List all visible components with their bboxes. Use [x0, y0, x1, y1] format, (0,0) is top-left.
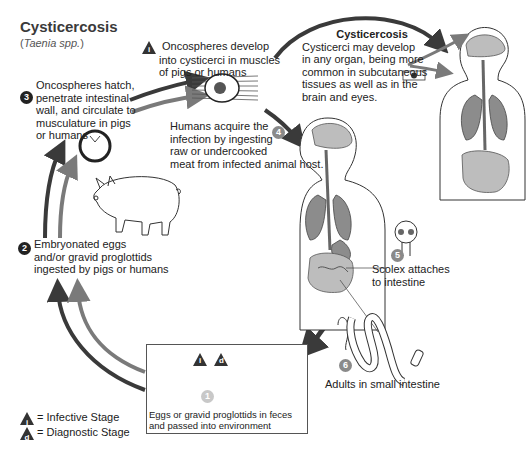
stage-5-number: 5: [391, 249, 404, 262]
infective-stage-icon: i: [193, 353, 207, 366]
page-subtitle: (Taenia spp.): [20, 37, 84, 49]
stage-4: Humans acquire the infection by ingestin…: [170, 120, 323, 170]
stage-5: Scolex attaches to intestine: [372, 263, 450, 288]
stage-1-number: 1: [201, 390, 214, 403]
stage-6: Adults in small intestine: [325, 378, 440, 391]
stage-6-number: 6: [339, 359, 352, 372]
muscle-development-note: i Oncospheres develop into cysticerci in…: [142, 40, 280, 79]
diagnostic-stage-icon: d: [20, 427, 34, 440]
cysticercosis-note-title: Cysticercosis: [302, 28, 442, 41]
infective-stage-icon: i: [142, 41, 156, 54]
stage-1: Eggs or gravid proglottids in feces and …: [149, 409, 292, 431]
cysticercosis-human-illustration: [440, 27, 525, 200]
legend-infective: i = Infective Stage: [20, 410, 130, 425]
cysticercosis-note: Cysticercosis Cysticerci may develop in …: [302, 28, 442, 103]
stage-4-number: 4: [272, 126, 285, 139]
legend: i = Infective Stage d = Diagnostic Stage: [20, 410, 130, 440]
stage-3: 3 Oncospheres hatch, penetrate intestina…: [20, 79, 136, 142]
stage-2-number: 2: [18, 242, 31, 255]
diagnostic-stage-icon: d: [214, 353, 228, 366]
stage-2: 2 Embryonated eggs and/or gravid proglot…: [18, 238, 169, 276]
stage-1-markers: i d: [193, 350, 228, 368]
infective-stage-icon: i: [20, 412, 34, 425]
arrow-stage3-to-muscle: [130, 80, 198, 112]
legend-diagnostic: d = Diagnostic Stage: [20, 425, 130, 440]
adult-tapeworm-illustration: [338, 317, 424, 382]
species-name: Taenia spp.: [24, 37, 80, 49]
stage-3-number: 3: [20, 91, 33, 104]
arrow-stage1-to-stage2: [58, 290, 145, 390]
page-title: Cysticercosis: [20, 18, 118, 35]
arrow-stage2-to-stage3: [45, 150, 72, 238]
pig-illustration: [94, 176, 181, 235]
